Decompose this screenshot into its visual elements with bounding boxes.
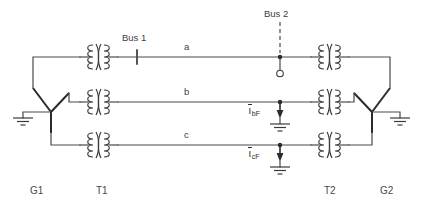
device-label-g2: G2 <box>380 186 393 196</box>
device-label-t1: T1 <box>96 186 108 196</box>
g1-lead-phase-c <box>51 133 80 145</box>
g2-lead-phase-b <box>349 93 354 102</box>
transformer-t2-phase-c <box>311 132 349 158</box>
bus2-open-terminal-icon <box>277 70 284 77</box>
g1-neutral-wire <box>23 112 51 118</box>
g2-lead-phase-a <box>349 57 390 88</box>
g1-lead-phase-b <box>69 93 80 102</box>
transformer-t2-phase-a <box>311 44 349 70</box>
bus2-label: Bus 2 <box>264 9 288 19</box>
g1-ground-icon <box>13 118 33 125</box>
g1-leg-a <box>33 88 51 112</box>
g2-leg-a <box>372 88 390 112</box>
icf-arrow-icon <box>277 153 284 162</box>
generator-g2 <box>349 57 410 145</box>
icf-symbol: I <box>248 148 252 159</box>
icf-subscript: cF <box>252 153 260 160</box>
g2-lead-phase-c <box>349 133 372 145</box>
transformer-t1-phase-b <box>80 89 118 115</box>
bus2-marker <box>277 22 284 77</box>
ibf-arrow-icon <box>277 110 284 119</box>
fault-current-icf <box>270 143 290 174</box>
device-label-t2: T2 <box>324 186 336 196</box>
g2-ground-icon <box>390 118 410 125</box>
ibf-symbol: I <box>248 105 252 116</box>
circuit-svg <box>0 0 423 210</box>
icf-ground-icon <box>270 167 290 174</box>
circuit-diagram: Bus 1 Bus 2 a b c IbF IcF G1 T1 T2 G2 <box>0 0 423 210</box>
fault-current-ibf <box>270 100 290 131</box>
device-label-g1: G1 <box>30 186 43 196</box>
generator-g1 <box>13 57 80 145</box>
g2-neutral-wire <box>372 112 400 118</box>
transformer-t2-phase-b <box>311 89 349 115</box>
ibf-ground-icon <box>270 124 290 131</box>
g1-lead-phase-a <box>33 57 80 88</box>
phase-label-a: a <box>184 42 189 52</box>
g2-leg-b <box>354 93 372 112</box>
fault-current-label-ibf: IbF <box>248 106 260 117</box>
bus1-label: Bus 1 <box>122 33 146 43</box>
transformer-t1-phase-c <box>80 132 118 158</box>
fault-current-label-icf: IcF <box>248 149 260 160</box>
g1-leg-b <box>51 93 69 112</box>
transformer-t1-phase-a <box>80 44 118 70</box>
phase-label-b: b <box>184 87 189 97</box>
ibf-subscript: bF <box>252 110 261 117</box>
phase-label-c: c <box>184 130 189 140</box>
